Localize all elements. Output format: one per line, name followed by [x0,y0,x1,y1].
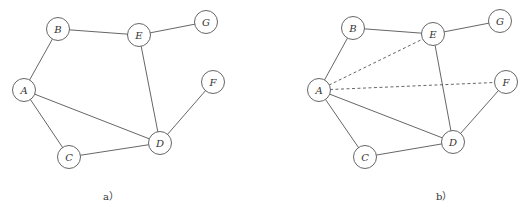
node-f: F [202,71,225,94]
node-c: C [58,146,81,169]
node-a: A [13,79,36,102]
graph-diagram: ABCDEFGa）ABCDEFGb） [0,0,523,213]
node-d: D [149,132,172,155]
edge-c-d [69,143,160,157]
graph-b: ABCDEFGb） [308,10,518,203]
node-label: D [155,138,164,149]
node-label: G [202,17,210,28]
node-label: F [502,77,511,88]
caption-a: a） [103,191,119,202]
graph-a: ABCDEFGa） [13,11,225,203]
caption-b: b） [436,191,452,202]
edge-a-e [319,34,433,90]
node-label: E [134,30,143,41]
edge-a-c [319,90,365,157]
edge-e-d [139,35,160,143]
node-b: B [342,17,365,40]
edge-a-f [319,82,506,90]
node-g: G [489,10,512,33]
edge-b-e [353,28,433,34]
edge-d-f [453,82,506,142]
node-e: E [422,23,445,46]
node-label: A [19,85,27,96]
node-label: D [448,137,457,148]
edge-a-d [24,90,160,143]
edge-d-f [160,82,213,143]
edge-a-d [319,90,453,142]
edge-e-d [433,34,453,142]
node-f: F [495,71,518,94]
node-b: B [47,18,70,41]
node-label: B [53,24,61,35]
node-label: C [361,152,369,163]
node-label: G [496,16,504,27]
edge-a-c [24,90,69,157]
node-g: G [195,11,218,34]
node-label: C [65,152,73,163]
node-label: A [314,85,322,96]
node-c: C [354,146,377,169]
node-label: F [209,77,218,88]
edge-b-e [58,29,139,35]
edge-c-d [365,142,453,157]
node-e: E [128,24,151,47]
node-a: A [308,79,331,102]
node-label: B [348,23,356,34]
node-d: D [442,131,465,154]
node-label: E [428,29,437,40]
